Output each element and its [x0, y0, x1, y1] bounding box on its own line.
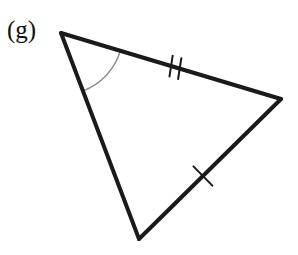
angle-arc-icon [83, 51, 120, 91]
triangle-figure: (g) [0, 0, 298, 255]
triangle-side-right [139, 99, 281, 239]
angle-arc-group [83, 51, 120, 91]
triangle-side-left [61, 33, 139, 239]
triangle-diagram-canvas [0, 0, 298, 255]
figure-label: (g) [7, 17, 36, 42]
